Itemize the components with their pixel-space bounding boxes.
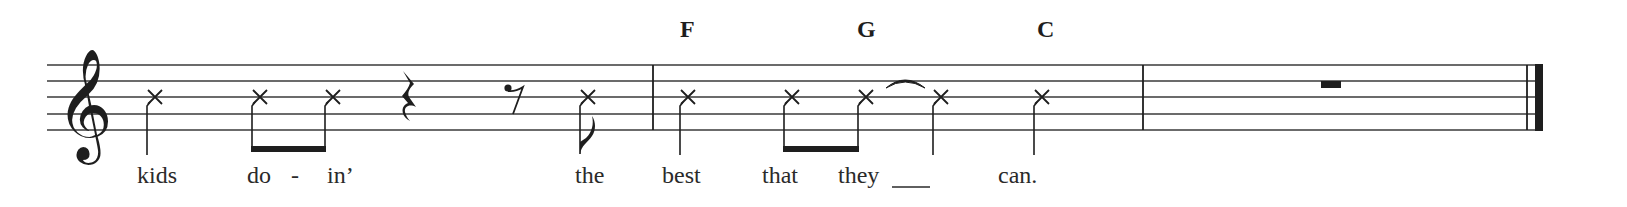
svg-text:𝄞: 𝄞 bbox=[56, 48, 113, 165]
lyric-the: the bbox=[575, 163, 604, 187]
chord-symbol-f: F bbox=[680, 17, 695, 41]
eighth-rest-icon bbox=[504, 84, 523, 114]
lyric-hyphen: - bbox=[291, 163, 299, 187]
chord-symbol-g: G bbox=[857, 17, 876, 41]
treble-clef-icon: 𝄞 bbox=[56, 48, 113, 165]
whole-rest-icon bbox=[1321, 81, 1341, 88]
eighth-flag-icon bbox=[580, 116, 595, 154]
lyric-do: do bbox=[247, 163, 271, 187]
final-barline-thick bbox=[1535, 64, 1543, 131]
lyric-best: best bbox=[662, 163, 701, 187]
beam-do-in bbox=[251, 146, 326, 152]
lyric-can: can. bbox=[998, 163, 1037, 187]
staff bbox=[47, 65, 1543, 130]
chord-symbol-c: C bbox=[1037, 17, 1054, 41]
lyric-that: that bbox=[762, 163, 798, 187]
beam-that-they bbox=[783, 146, 859, 152]
music-score: 𝄞 bbox=[0, 0, 1627, 207]
lyric-they: they bbox=[838, 163, 879, 187]
lyric-kids: kids bbox=[137, 163, 177, 187]
lyric-in: in’ bbox=[327, 163, 354, 187]
